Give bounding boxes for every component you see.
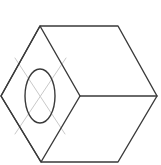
canvas-background: [0, 0, 161, 165]
drawing-canvas: [0, 0, 161, 165]
line-drawing-svg: [0, 0, 161, 165]
